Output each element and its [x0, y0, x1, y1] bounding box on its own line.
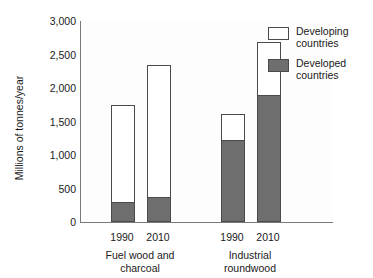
x-group-label-line1: Industrial	[224, 249, 276, 262]
y-tick-label-1500: 1,500	[50, 116, 76, 128]
x-group-label-line2: roundwood	[224, 262, 276, 275]
x-label-fuelwood-1990: 1990	[110, 231, 133, 243]
y-tick-label-3000: 3,000	[50, 15, 76, 27]
bar-industrial-1990	[221, 114, 245, 223]
y-tick-label-0: 0	[70, 216, 76, 228]
legend-item-developed: Developed countries	[268, 58, 349, 81]
legend-swatch-developed-icon	[268, 59, 289, 72]
y-axis-tick-labels: 3,000 2,500 2,000 1,500 1,000 500 0	[0, 0, 76, 278]
y-tick-label-1000: 1,000	[50, 149, 76, 161]
bar-segment-developed	[221, 140, 245, 222]
chart-figure: 3,000 2,500 2,000 1,500 1,000 500 0 Mill…	[0, 0, 373, 278]
bar-fuelwood-1990	[111, 105, 135, 222]
legend-item-developing: Developing countries	[268, 26, 349, 49]
x-group-label-fuelwood: Fuel wood and charcoal	[106, 249, 175, 274]
y-tick-label-2500: 2,500	[50, 49, 76, 61]
bar-segment-developed	[111, 202, 135, 222]
y-tick-label-500: 500	[58, 183, 76, 195]
legend-swatch-developing-icon	[268, 27, 289, 40]
x-group-label-industrial: Industrial roundwood	[224, 249, 276, 274]
bar-segment-developed	[257, 95, 281, 222]
x-group-label-line1: Fuel wood and	[106, 249, 175, 262]
x-label-industrial-1990: 1990	[220, 231, 243, 243]
y-axis-title: Millions of tonnes/year	[13, 48, 25, 208]
legend-label-developing: Developing countries	[296, 26, 349, 49]
x-group-label-line2: charcoal	[106, 262, 175, 275]
bar-fuelwood-2010	[147, 65, 171, 222]
legend-label-developed: Developed countries	[296, 58, 346, 81]
y-tick-label-2000: 2,000	[50, 82, 76, 94]
chart-legend: Developing countries Developed countries	[268, 26, 349, 90]
bar-segment-developed	[147, 197, 171, 222]
x-label-industrial-2010: 2010	[256, 231, 279, 243]
x-label-fuelwood-2010: 2010	[146, 231, 169, 243]
